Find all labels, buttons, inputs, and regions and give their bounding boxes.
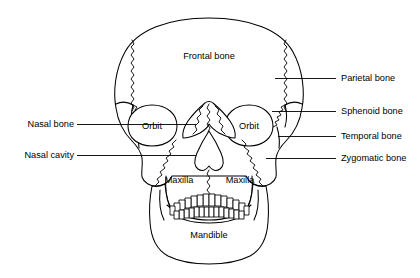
tooth-upper [215, 195, 221, 206]
callout-labels-left: Nasal bone Nasal cavity [24, 119, 74, 160]
tooth-lower [234, 210, 239, 219]
label-maxilla-left: Maxilla [165, 175, 194, 185]
label-frontal-bone: Frontal bone [183, 51, 235, 61]
tooth-lower [209, 207, 214, 217]
skull-illustration: Frontal bone Orbit Orbit Maxilla Maxilla… [0, 0, 420, 278]
tooth-upper [244, 206, 249, 215]
tooth-lower [194, 207, 199, 217]
tooth-upper [185, 198, 191, 208]
label-temporal-bone: Temporal bone [341, 131, 402, 141]
label-orbit-right: Orbit [239, 121, 259, 131]
label-maxilla-right: Maxilla [226, 175, 255, 185]
tooth-upper [203, 194, 209, 206]
tooth-upper [227, 198, 233, 208]
label-parietal-bone: Parietal bone [341, 73, 395, 83]
callout-labels-right: Parietal bone Sphenoid bone Temporal bon… [341, 73, 406, 163]
label-zygomatic-bone: Zygomatic bone [341, 153, 406, 163]
tooth-lower [174, 211, 179, 219]
tooth-upper [233, 200, 239, 210]
tooth-upper [221, 196, 227, 207]
tooth-upper [197, 195, 203, 206]
label-nasal-bone: Nasal bone [28, 119, 74, 129]
tooth-upper [209, 194, 215, 206]
tooth-lower [199, 207, 204, 217]
tooth-lower [219, 207, 224, 217]
label-sphenoid-bone: Sphenoid bone [341, 106, 403, 116]
tooth-lower [229, 209, 234, 218]
tooth-lower [184, 209, 189, 218]
tooth-lower [214, 207, 219, 217]
tooth-upper [191, 196, 197, 207]
label-nasal-cavity: Nasal cavity [24, 150, 74, 160]
label-mandible: Mandible [190, 230, 227, 240]
tooth-lower [239, 211, 244, 219]
tooth-lower [189, 208, 194, 218]
teeth-group [167, 194, 251, 220]
skull-diagram: Frontal bone Orbit Orbit Maxilla Maxilla… [0, 0, 420, 278]
label-orbit-left: Orbit [142, 121, 162, 131]
tooth-lower [204, 207, 209, 217]
tooth-lower [224, 208, 229, 218]
tooth-lower [179, 210, 184, 219]
